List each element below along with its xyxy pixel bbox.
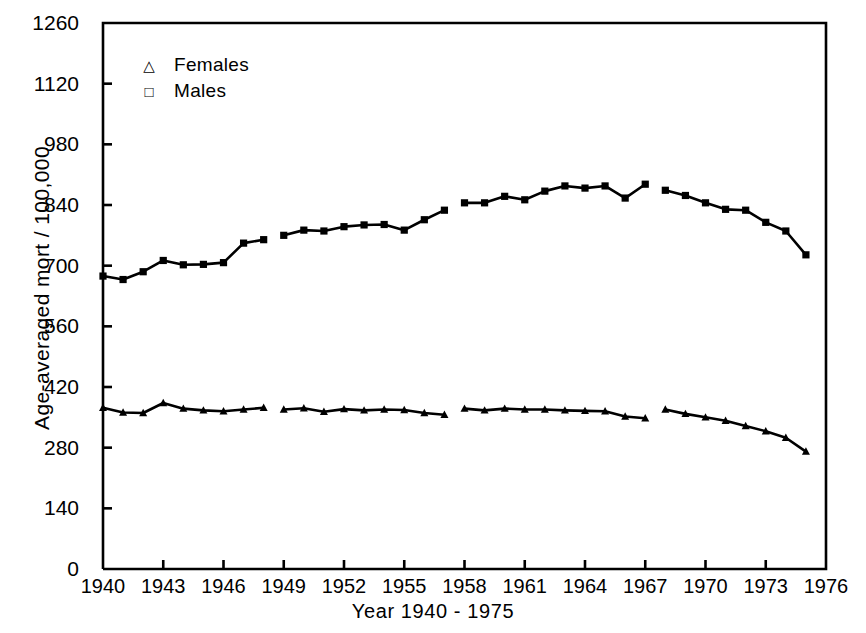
data-point-square	[119, 276, 126, 283]
data-point-square	[622, 194, 629, 201]
series-line	[465, 184, 646, 203]
series-line	[103, 240, 264, 280]
chart-figure: Age-averaged mort / 100,000 Year 1940 - …	[0, 0, 866, 633]
data-point-square	[722, 206, 729, 213]
series-line	[465, 409, 646, 419]
data-point-square	[461, 199, 468, 206]
data-point-square	[200, 261, 207, 268]
series-males	[99, 181, 809, 284]
data-point-square	[682, 192, 689, 199]
data-point-square	[140, 268, 147, 275]
data-point-square	[340, 223, 347, 230]
data-point-square	[441, 207, 448, 214]
data-point-square	[762, 219, 769, 226]
data-point-square	[561, 182, 568, 189]
data-point-square	[320, 227, 327, 234]
data-point-square	[481, 199, 488, 206]
data-point-square	[642, 181, 649, 188]
data-point-square	[381, 221, 388, 228]
series-line	[665, 190, 806, 255]
data-point-square	[702, 199, 709, 206]
data-point-square	[421, 216, 428, 223]
data-point-square	[280, 232, 287, 239]
data-point-square	[541, 188, 548, 195]
data-point-square	[501, 193, 508, 200]
series-females	[99, 399, 810, 455]
data-point-square	[240, 240, 247, 247]
data-point-square	[521, 196, 528, 203]
plot-area	[0, 0, 866, 633]
plot-frame	[103, 23, 826, 569]
data-point-square	[581, 185, 588, 192]
data-point-square	[742, 207, 749, 214]
data-point-square	[300, 227, 307, 234]
data-point-square	[220, 259, 227, 266]
data-point-square	[401, 227, 408, 234]
data-point-square	[360, 221, 367, 228]
data-point-square	[99, 272, 106, 279]
data-point-square	[802, 251, 809, 258]
data-point-square	[662, 187, 669, 194]
data-point-square	[601, 182, 608, 189]
data-point-square	[782, 227, 789, 234]
data-point-square	[160, 257, 167, 264]
data-point-square	[180, 261, 187, 268]
data-point-square	[260, 236, 267, 243]
